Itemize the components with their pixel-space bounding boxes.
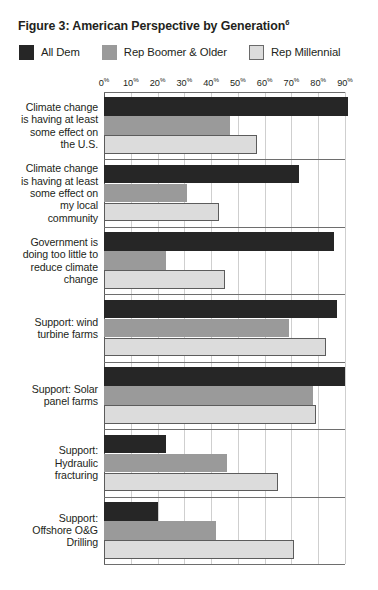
percent-sign: % — [213, 76, 219, 83]
group-separator — [104, 92, 345, 93]
category-label: Support:Offshore O&GDrilling — [0, 512, 98, 549]
category-label-line: Offshore O&G — [0, 524, 98, 536]
percent-sign: % — [187, 76, 193, 83]
category-label-line: Drilling — [0, 536, 98, 548]
gridline — [318, 92, 319, 564]
bar — [104, 338, 326, 357]
bar — [104, 232, 334, 251]
bar — [104, 473, 278, 492]
bar — [104, 502, 158, 521]
group-separator — [104, 564, 345, 565]
tick-value: 50 — [230, 78, 240, 88]
bar — [104, 203, 219, 222]
bar — [104, 165, 299, 184]
legend-swatch-icon — [249, 45, 264, 60]
bar — [104, 270, 225, 289]
bar — [104, 300, 337, 319]
x-axis-tick-label: 40% — [203, 76, 219, 88]
category-label-line: Support: Solar — [0, 383, 98, 395]
legend-item[interactable]: Rep Millennial — [249, 45, 341, 60]
figure-3-chart: Figure 3: American Perspective by Genera… — [0, 0, 378, 590]
bar — [104, 386, 313, 405]
category-label-line: the U.S. — [0, 138, 98, 150]
bar — [104, 435, 166, 454]
chart-legend: All DemRep Boomer & OlderRep Millennial — [19, 43, 340, 61]
page-title: Figure 3: American Perspective by Genera… — [18, 18, 363, 33]
group-separator — [104, 362, 345, 363]
category-label-line: Support: wind — [0, 316, 98, 328]
category-label: Climate changeis having at leastsome eff… — [0, 101, 98, 151]
gridline — [291, 92, 292, 564]
category-label-line: my local — [0, 199, 98, 211]
percent-sign: % — [347, 76, 353, 83]
legend-swatch-icon — [19, 45, 34, 60]
bar — [104, 521, 216, 540]
figure-title-footnote-marker: 6 — [285, 18, 289, 27]
legend-item-label: Rep Boomer & Older — [124, 46, 227, 58]
category-label: Climate changeis having at leastsome eff… — [0, 162, 98, 224]
legend-swatch-icon — [102, 45, 117, 60]
percent-sign: % — [133, 76, 139, 83]
bar — [104, 116, 230, 135]
category-label-line: reduce climate — [0, 261, 98, 273]
legend-item[interactable]: All Dem — [19, 45, 80, 60]
tick-value: 20 — [150, 78, 160, 88]
bar — [104, 184, 187, 203]
x-axis-tick-label: 90% — [337, 76, 353, 88]
group-separator — [104, 227, 345, 228]
bar — [104, 251, 166, 270]
tick-value: 40 — [203, 78, 213, 88]
tick-value: 90 — [337, 78, 347, 88]
category-label-line: turbine farms — [0, 328, 98, 340]
tick-value: 10 — [123, 78, 133, 88]
category-label-line: some effect on — [0, 187, 98, 199]
category-label-line: Climate change — [0, 101, 98, 113]
bar — [104, 135, 257, 154]
group-separator — [104, 159, 345, 160]
percent-sign: % — [321, 76, 327, 83]
category-label-line: Hydraulic — [0, 457, 98, 469]
category-label-line: Support: — [0, 512, 98, 524]
category-label-line: fracturing — [0, 469, 98, 481]
percent-sign: % — [240, 76, 246, 83]
category-label-line: doing too little to — [0, 248, 98, 260]
legend-item-label: Rep Millennial — [271, 46, 341, 58]
x-axis-tick-label: 80% — [310, 76, 326, 88]
category-label-line: is having at least — [0, 113, 98, 125]
bar — [104, 319, 289, 338]
group-separator — [104, 294, 345, 295]
bar — [104, 540, 294, 559]
category-label-line: Support: — [0, 444, 98, 456]
group-separator — [104, 497, 345, 498]
x-axis-tick-label: 30% — [176, 76, 192, 88]
category-label-line: change — [0, 273, 98, 285]
tick-value: 60 — [257, 78, 267, 88]
category-label-line: panel farms — [0, 395, 98, 407]
category-label-line: community — [0, 212, 98, 224]
plot-area — [104, 92, 345, 564]
bar — [104, 405, 316, 424]
x-axis-tick-label: 0% — [99, 76, 110, 88]
bar — [104, 367, 345, 386]
category-label-line: is having at least — [0, 175, 98, 187]
category-label: Support:Hydraulicfracturing — [0, 444, 98, 481]
bar — [104, 454, 227, 473]
x-axis-tick-label: 50% — [230, 76, 246, 88]
category-label-line: some effect on — [0, 126, 98, 138]
bar — [104, 97, 348, 116]
legend-item-label: All Dem — [41, 46, 80, 58]
x-axis-tick-label: 10% — [123, 76, 139, 88]
legend-item[interactable]: Rep Boomer & Older — [102, 45, 227, 60]
gridline — [345, 92, 346, 564]
category-label: Support: Solarpanel farms — [0, 383, 98, 408]
percent-sign: % — [160, 76, 166, 83]
category-label-line: Climate change — [0, 162, 98, 174]
percent-sign: % — [294, 76, 300, 83]
tick-value: 70 — [284, 78, 294, 88]
tick-value: 80 — [310, 78, 320, 88]
x-axis-tick-label: 60% — [257, 76, 273, 88]
category-label: Support: windturbine farms — [0, 316, 98, 341]
figure-title-text: Figure 3: American Perspective by Genera… — [18, 19, 285, 33]
percent-sign: % — [267, 76, 273, 83]
category-label-line: Government is — [0, 236, 98, 248]
